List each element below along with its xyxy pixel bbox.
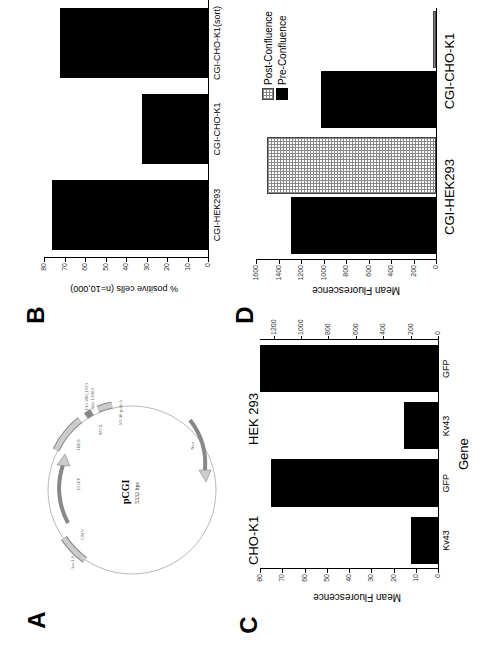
- category-label: CGI-CHO-K1(sort): [212, 0, 222, 88]
- x-axis-label: Gene: [456, 438, 471, 470]
- panel-label-d: D: [233, 306, 257, 323]
- panel-label-a: A: [25, 611, 49, 628]
- y-tick-label: 0: [204, 263, 211, 287]
- y-tick-mark: [324, 260, 325, 264]
- x-axis: [208, 0, 209, 258]
- y-tick-mark: [346, 260, 347, 264]
- bar-post-confluence: [267, 137, 436, 194]
- y-tick-mark: [167, 258, 168, 262]
- y-tick-label: 60: [301, 574, 308, 598]
- y-tick-label: 0: [434, 574, 441, 598]
- panel-label-b: B: [24, 306, 48, 323]
- panel-a-plasmid: pCGI 5332 bps CMV EGFP IRES MCS SV40 pol…: [40, 380, 220, 600]
- y-tick-mark: [369, 260, 370, 264]
- y-tick-mark: [391, 260, 392, 264]
- y-tick-mark: [274, 336, 275, 340]
- y-tick-mark: [438, 336, 439, 340]
- feature-site-2: Xba 12003: [90, 388, 95, 410]
- x-axis: [438, 337, 439, 569]
- y-tick-mark: [383, 336, 384, 340]
- bar: [142, 94, 208, 164]
- panel-b-chart: 01020304050607080 CGI-HEK293CGI-CHO-K1CG…: [38, 0, 218, 298]
- bar: [271, 460, 438, 507]
- y-tick-mark: [65, 258, 66, 262]
- category-label: Kv43: [441, 402, 451, 449]
- bar: [52, 180, 208, 250]
- y-tick-label: 400: [379, 311, 386, 335]
- category-label: CGI-CHO-K1: [212, 84, 222, 174]
- y-tick-mark: [256, 260, 257, 264]
- feature-neo: Neo: [190, 442, 195, 450]
- y-tick-mark: [279, 260, 280, 264]
- feature-sv40: SV40 polyA: [118, 400, 123, 425]
- y-tick-mark: [260, 569, 261, 573]
- category-label: CGI-CHO-K1: [442, 14, 457, 128]
- category-label: GFP: [441, 345, 451, 392]
- y-tick-mark: [208, 258, 209, 262]
- y-tick-mark: [356, 336, 357, 340]
- y-axis-label: Mean Fluorescence: [312, 285, 400, 296]
- bar: [411, 517, 438, 564]
- bar-pre-confluence: [321, 71, 436, 128]
- y-tick-label: 0: [432, 265, 439, 289]
- y-tick-label: 800: [324, 311, 331, 335]
- y-axis-label: Mean Fluorescence: [313, 592, 401, 603]
- y-tick-mark: [147, 258, 148, 262]
- y-tick-mark: [188, 258, 189, 262]
- y-tick-label: 1400: [275, 265, 282, 289]
- y-tick-label: 0: [434, 311, 441, 335]
- y-tick-label: 600: [352, 311, 359, 335]
- y-tick-label: 70: [61, 263, 68, 287]
- category-label: GFP: [441, 460, 451, 507]
- legend-pre-confluence: Pre-Confluence: [276, 16, 288, 100]
- y-tick-mark: [85, 258, 86, 262]
- panel-c-chart: 01020304050607080020040060080010001200 K…: [246, 340, 471, 605]
- bar-pre-confluence: [291, 197, 436, 254]
- y-tick-label: 200: [407, 311, 414, 335]
- panel-d-chart: 02004006008001000120014001600 CGI-HEK293…: [250, 2, 480, 300]
- bar: [404, 402, 438, 449]
- y-tick-mark: [438, 569, 439, 573]
- y-tick-mark: [301, 336, 302, 340]
- y-tick-mark: [44, 258, 45, 262]
- feature-site-1: Pfo 480,1923: [84, 383, 89, 410]
- y-tick-label: 70: [278, 574, 285, 598]
- panel-label-c: C: [237, 616, 261, 633]
- bar: [260, 345, 438, 392]
- y-tick-label: 1200: [270, 311, 277, 335]
- y-tick-mark: [394, 569, 395, 573]
- y-tick-mark: [301, 260, 302, 264]
- bar: [60, 8, 208, 78]
- y-tick-mark: [328, 336, 329, 340]
- y-tick-mark: [282, 569, 283, 573]
- y-tick-label: 80: [40, 263, 47, 287]
- bar-post-confluence: [433, 11, 436, 68]
- x-axis: [436, 8, 437, 260]
- y-tick-label: 1600: [252, 265, 259, 289]
- y-tick-label: 1000: [297, 311, 304, 335]
- y-tick-mark: [106, 258, 107, 262]
- legend-post-confluence: Post-Confluence: [262, 11, 274, 100]
- category-label: Kv43: [441, 517, 451, 564]
- y-tick-label: 10: [184, 263, 191, 287]
- y-tick-mark: [436, 260, 437, 264]
- plasmid-name: pCGI: [120, 480, 131, 504]
- y-tick-label: 1200: [297, 265, 304, 289]
- y-tick-mark: [126, 258, 127, 262]
- plasmid-size: 5332 bps: [134, 482, 140, 504]
- y-tick-mark: [305, 569, 306, 573]
- feature-ase: Ase I,6: [70, 556, 75, 570]
- category-label: CGI-HEK293: [442, 140, 457, 254]
- y-tick-label: 200: [410, 265, 417, 289]
- y-tick-mark: [327, 569, 328, 573]
- y-tick-label: 10: [412, 574, 419, 598]
- feature-mcs: MCS: [98, 424, 103, 435]
- category-label: CGI-HEK293: [212, 170, 222, 260]
- y-tick-mark: [414, 260, 415, 264]
- group-label-hek: HEK 293: [246, 393, 261, 445]
- feature-ires: IRES: [76, 439, 81, 450]
- feature-cmv: CMV: [80, 529, 85, 540]
- y-tick-mark: [411, 336, 412, 340]
- y-tick-mark: [349, 569, 350, 573]
- y-tick-label: 80: [256, 574, 263, 598]
